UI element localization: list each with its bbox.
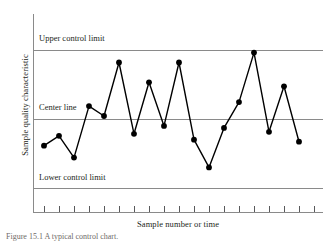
- x-axis-ticks: [45, 206, 315, 212]
- data-point: [41, 143, 47, 149]
- data-point: [251, 50, 257, 56]
- data-series-markers: [41, 50, 302, 171]
- x-axis-title: Sample number or time: [33, 219, 323, 229]
- y-axis-title: Sample quality characteristic: [20, 5, 30, 205]
- lower-control-limit-label: Lower control limit: [39, 172, 106, 182]
- upper-control-limit-label: Upper control limit: [39, 33, 105, 43]
- data-point: [206, 165, 212, 171]
- data-point: [236, 99, 242, 105]
- data-point: [296, 139, 302, 145]
- data-point: [56, 133, 62, 139]
- data-point: [161, 123, 167, 129]
- data-point: [281, 83, 287, 89]
- data-point: [101, 113, 107, 119]
- figure-caption: Figure 15.1 A typical control chart.: [6, 232, 335, 241]
- data-point: [86, 103, 92, 109]
- data-point: [266, 129, 272, 135]
- data-point: [191, 137, 197, 143]
- data-series-line: [44, 53, 299, 168]
- data-point: [116, 60, 122, 66]
- control-chart-figure: Upper control limit Center line Lower co…: [0, 0, 335, 242]
- data-point: [176, 60, 182, 66]
- data-point: [146, 79, 152, 85]
- data-point: [221, 125, 227, 131]
- data-point: [131, 131, 137, 137]
- data-point: [71, 155, 77, 161]
- center-line-label: Center line: [39, 102, 77, 112]
